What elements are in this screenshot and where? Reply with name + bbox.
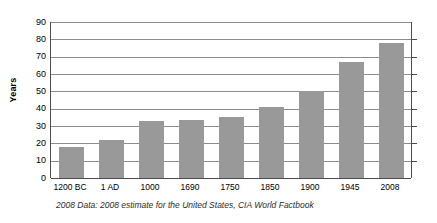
x-axis-tick-labels: 1200 BC1 AD1000169017501850190019452008 (50, 182, 410, 196)
right-axis-tick (411, 161, 417, 162)
bar (179, 120, 204, 178)
gridline (51, 178, 411, 179)
bar-chart: Years 0102030405060708090 1200 BC1 AD100… (0, 0, 437, 223)
right-axis-tick (411, 91, 417, 92)
right-axis-tick (411, 74, 417, 75)
bar (259, 107, 284, 178)
right-axis-tick (411, 109, 417, 110)
right-axis-tick (411, 126, 417, 127)
bar (299, 91, 324, 178)
y-axis-title-label: Years (8, 77, 18, 102)
y-axis-tick-label: 40 (20, 104, 46, 113)
y-axis-tick-label: 60 (20, 70, 46, 79)
y-axis-tick-label: 80 (20, 35, 46, 44)
right-axis-line (411, 22, 412, 178)
y-axis-tick-label: 10 (20, 156, 46, 165)
bar (339, 62, 364, 178)
right-axis-tick (411, 57, 417, 58)
bar (219, 117, 244, 178)
y-axis-tick-label: 90 (20, 18, 46, 27)
y-axis-tick-label: 70 (20, 52, 46, 61)
chart-footnote: 2008 Data: 2008 estimate for the United … (56, 200, 314, 210)
x-axis-tick-label: 2008 (360, 182, 420, 192)
bar (139, 121, 164, 178)
bar (379, 43, 404, 178)
right-axis-tick (411, 39, 417, 40)
bars (51, 22, 411, 178)
bar (59, 147, 84, 178)
plot-area (50, 22, 411, 178)
y-axis-tick-label: 50 (20, 87, 46, 96)
right-axis-tick (411, 143, 417, 144)
y-axis-tick-labels: 0102030405060708090 (20, 22, 46, 178)
y-axis-tick-label: 30 (20, 122, 46, 131)
bar (99, 140, 124, 178)
y-axis-tick-label: 20 (20, 139, 46, 148)
